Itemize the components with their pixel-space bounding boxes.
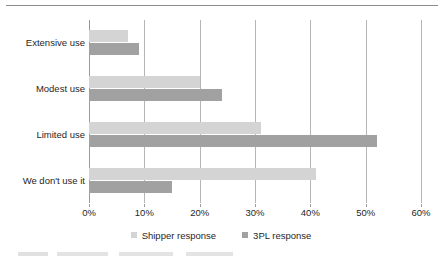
tpl-swatch-icon	[242, 232, 248, 238]
chart-figure: Extensive useModest useLimited useWe don…	[0, 0, 442, 259]
x-tick-label-10pct: 10%	[135, 207, 154, 218]
plot-area	[89, 20, 421, 203]
y-axis-category-labels: Extensive useModest useLimited useWe don…	[0, 20, 85, 203]
bar-shipper[interactable]	[89, 76, 200, 88]
x-tick-label-60pct: 60%	[411, 207, 430, 218]
bar-shipper[interactable]	[89, 30, 128, 42]
legend-label-shipper: Shipper response	[142, 230, 216, 241]
legend-item-shipper[interactable]: Shipper response	[131, 230, 216, 241]
bar-3pl[interactable]	[89, 43, 139, 55]
gridline-50pct	[366, 20, 367, 203]
bar-3pl[interactable]	[89, 89, 222, 101]
x-tick-label-0pct: 0%	[82, 207, 96, 218]
x-tick-label-40pct: 40%	[301, 207, 320, 218]
legend-label-3pl: 3PL response	[253, 230, 311, 241]
x-tick-label-50pct: 50%	[356, 207, 375, 218]
chart-legend: Shipper response 3PL response	[0, 228, 442, 242]
category-label: Modest use	[1, 83, 85, 94]
gridline-60pct	[421, 20, 422, 203]
x-tick-label-20pct: 20%	[190, 207, 209, 218]
x-axis: 0%10%20%30%40%50%60%	[89, 204, 421, 222]
page-bottom-artifact	[18, 252, 233, 256]
shipper-swatch-icon	[131, 232, 137, 238]
x-tick-label-30pct: 30%	[245, 207, 264, 218]
bar-shipper[interactable]	[89, 122, 261, 134]
bar-shipper[interactable]	[89, 168, 316, 180]
category-label: Limited use	[1, 129, 85, 140]
top-horizontal-rule	[6, 5, 438, 6]
bar-3pl[interactable]	[89, 135, 377, 147]
legend-item-3pl[interactable]: 3PL response	[242, 230, 311, 241]
category-label: We don't use it	[1, 175, 85, 186]
category-label: Extensive use	[1, 37, 85, 48]
bar-3pl[interactable]	[89, 181, 172, 193]
